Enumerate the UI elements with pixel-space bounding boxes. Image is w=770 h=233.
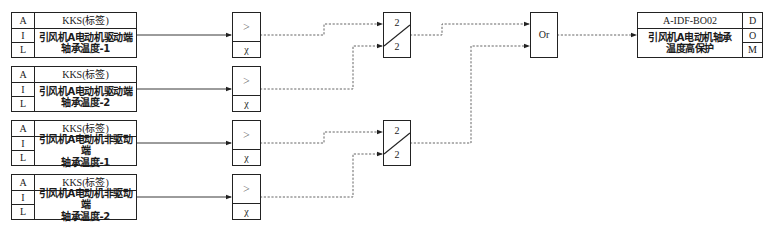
input-desc-line2: 轴承温度-2 xyxy=(61,211,110,223)
input-desc-line1: 引风机A电动机非驱动端 xyxy=(35,134,136,157)
output-side-label-o: O xyxy=(742,28,762,42)
comparator-threshold: χ xyxy=(233,95,260,111)
input-side-label-i: I xyxy=(12,28,34,42)
input-desc-line2: 轴承温度-2 xyxy=(61,97,110,109)
output-description: 引风机A电动机轴承 温度高保护 xyxy=(638,28,742,57)
greater-than-icon: > xyxy=(233,121,260,149)
input-side-label-a: A xyxy=(12,67,34,82)
input-side-label-l: L xyxy=(12,42,34,57)
comparator-block-2[interactable]: > χ xyxy=(232,66,261,112)
input-desc-line1: 引风机A电动机驱动端 xyxy=(39,32,133,44)
input-side-label-l: L xyxy=(12,150,34,165)
greater-than-icon: > xyxy=(233,13,260,41)
input-block-2[interactable]: A I L KKS(标签) 引风机A电动机驱动端 轴承温度-2 xyxy=(11,66,137,112)
input-side-label-a: A xyxy=(12,121,34,136)
wire-vote1-to-or xyxy=(410,24,529,35)
input-description: 引风机A电动机驱动端 轴承温度-1 xyxy=(34,28,136,57)
wire-vote2-to-or xyxy=(410,46,529,143)
input-side-label-i: I xyxy=(12,190,34,204)
input-description: 引风机A电动机驱动端 轴承温度-2 xyxy=(34,82,136,111)
output-block[interactable]: A-IDF-BO02 引风机A电动机轴承 温度高保护 D O M xyxy=(637,12,763,58)
input-tag: KKS(标签) xyxy=(34,67,136,82)
input-side-label-l: L xyxy=(12,96,34,111)
input-description: 引风机A电动机非驱动端 轴承温度-2 xyxy=(34,190,136,219)
input-desc-line2: 轴承温度-1 xyxy=(61,43,110,55)
input-desc-line1: 引风机A电动机驱动端 xyxy=(39,86,133,98)
vote-bottom-count: 2 xyxy=(384,39,410,55)
comparator-block-4[interactable]: > χ xyxy=(232,174,261,220)
wire-comp3-to-vote2 xyxy=(260,132,382,143)
input-side-label-a: A xyxy=(12,13,34,28)
vote-top-count: 2 xyxy=(384,15,410,31)
input-block-4[interactable]: A I L KKS(标签) 引风机A电动机非驱动端 轴承温度-2 xyxy=(11,174,137,220)
input-desc-line2: 轴承温度-1 xyxy=(61,157,110,169)
greater-than-icon: > xyxy=(233,175,260,203)
vote-bottom-count: 2 xyxy=(384,147,410,163)
wire-comp2-to-vote1 xyxy=(260,46,382,89)
input-side-label-a: A xyxy=(12,175,34,190)
output-desc-line1: 引风机A电动机轴承 xyxy=(648,32,732,44)
input-side-label-i: I xyxy=(12,136,34,150)
input-side-label-l: L xyxy=(12,204,34,219)
comparator-threshold: χ xyxy=(233,203,260,219)
comparator-block-3[interactable]: > χ xyxy=(232,120,261,166)
vote-2oo2-block-1[interactable]: 2 2 xyxy=(383,12,411,58)
output-desc-line2: 温度高保护 xyxy=(666,43,714,55)
input-side-label-i: I xyxy=(12,82,34,96)
or-gate-label: Or xyxy=(531,13,557,57)
or-gate-block[interactable]: Or xyxy=(530,12,558,58)
output-side-label-d: D xyxy=(742,13,762,28)
comparator-threshold: χ xyxy=(233,41,260,57)
comparator-block-1[interactable]: > χ xyxy=(232,12,261,58)
wire-comp1-to-vote1 xyxy=(260,24,382,35)
input-block-1[interactable]: A I L KKS(标签) 引风机A电动机驱动端 轴承温度-1 xyxy=(11,12,137,58)
input-description: 引风机A电动机非驱动端 轴承温度-1 xyxy=(34,136,136,165)
comparator-threshold: χ xyxy=(233,149,260,165)
input-block-3[interactable]: A I L KKS(标签) 引风机A电动机非驱动端 轴承温度-1 xyxy=(11,120,137,166)
output-tag: A-IDF-BO02 xyxy=(638,13,742,28)
input-tag: KKS(标签) xyxy=(34,13,136,28)
wire-comp4-to-vote2 xyxy=(260,154,382,197)
vote-top-count: 2 xyxy=(384,123,410,139)
vote-2oo2-block-2[interactable]: 2 2 xyxy=(383,120,411,166)
greater-than-icon: > xyxy=(233,67,260,95)
input-desc-line1: 引风机A电动机非驱动端 xyxy=(35,188,136,211)
output-side-label-m: M xyxy=(742,42,762,57)
